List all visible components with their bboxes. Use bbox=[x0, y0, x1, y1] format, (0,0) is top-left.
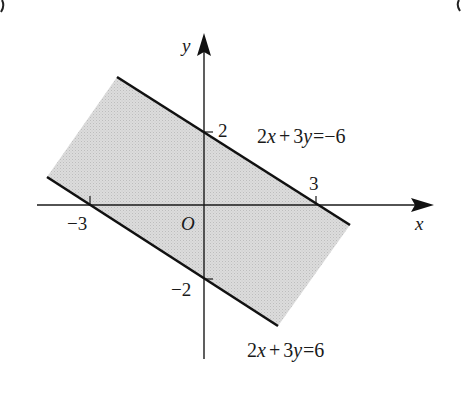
equation-label-upper: 2x+3y=−6 bbox=[257, 125, 346, 148]
x-axis-label: x bbox=[414, 213, 424, 234]
eq-lower-eq: = bbox=[303, 339, 314, 361]
eq-lower-rhs: 6 bbox=[314, 339, 324, 361]
coordinate-diagram: y x O 3 −3 2 −2 2x+3y=−6 2x+3y=6 bbox=[0, 0, 463, 395]
equation-label-lower: 2x+3y=6 bbox=[247, 339, 324, 362]
eq-upper-b: 3 bbox=[293, 125, 303, 147]
eq-lower-x: x bbox=[256, 339, 266, 361]
tick-label-y-pos: 2 bbox=[218, 120, 228, 141]
eq-lower-b: 3 bbox=[283, 339, 293, 361]
shaded-region bbox=[47, 77, 350, 326]
eq-upper-y: y bbox=[301, 125, 312, 148]
eq-upper-plus: + bbox=[279, 125, 290, 147]
eq-lower-a: 2 bbox=[247, 339, 257, 361]
eq-lower-y: y bbox=[291, 339, 302, 362]
corner-mark-left bbox=[1, 0, 3, 12]
eq-lower-plus: + bbox=[269, 339, 280, 361]
eq-upper-a: 2 bbox=[257, 125, 267, 147]
corner-mark-right bbox=[458, 0, 460, 11]
eq-upper-x: x bbox=[266, 125, 276, 147]
tick-label-y-neg: −2 bbox=[171, 279, 191, 300]
eq-upper-eq: = bbox=[313, 125, 324, 147]
tick-label-x-pos: 3 bbox=[309, 173, 319, 194]
y-axis-label: y bbox=[180, 35, 191, 56]
tick-label-x-neg: −3 bbox=[67, 213, 87, 234]
eq-upper-rhs: −6 bbox=[324, 125, 345, 147]
origin-label: O bbox=[181, 213, 195, 234]
